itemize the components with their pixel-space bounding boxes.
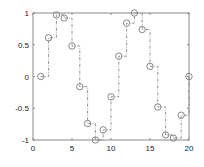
- x-tick-label: 20: [185, 144, 194, 153]
- x-tick-label: 15: [146, 144, 155, 153]
- y-tick-label: 0: [25, 73, 30, 82]
- stair-chart: -1-0.500.51 05101520: [0, 0, 204, 167]
- y-tick-label: -1: [22, 136, 30, 145]
- x-tick-label: 10: [107, 144, 116, 153]
- y-tick-label: 1: [25, 9, 30, 18]
- x-tick-label: 5: [70, 144, 75, 153]
- y-tick-label: 0.5: [18, 41, 30, 50]
- x-tick-label: 0: [31, 144, 36, 153]
- y-tick-label: -0.5: [15, 104, 29, 113]
